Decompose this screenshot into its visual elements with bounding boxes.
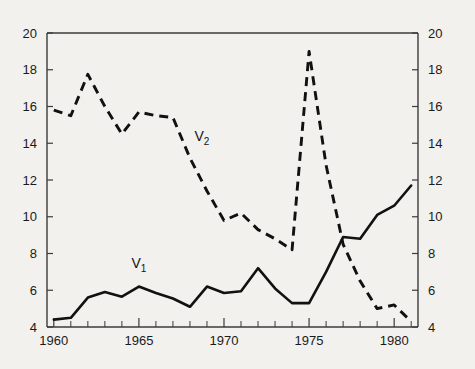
y-tick-label-right: 20	[428, 26, 442, 41]
y-tick-label-right: 6	[428, 283, 435, 298]
x-tick-label: 1965	[124, 333, 153, 348]
chart-page: 201816141210864 201816141210864 19601965…	[0, 0, 475, 369]
y-tick-label-right: 8	[428, 246, 435, 261]
y-tick-label-left: 18	[23, 62, 37, 77]
y-tick-label-right: 10	[428, 209, 442, 224]
x-tick-label: 1970	[210, 333, 239, 348]
y-tick-label-right: 12	[428, 173, 442, 188]
y-tick-label-left: 6	[30, 283, 37, 298]
y-tick-label-right: 14	[428, 136, 442, 151]
y-tick-label-right: 16	[428, 99, 442, 114]
y-tick-label-right: 4	[428, 320, 435, 335]
y-tick-label-right: 18	[428, 62, 442, 77]
y-tick-label-left: 10	[23, 209, 37, 224]
x-tick-label: 1960	[39, 333, 68, 348]
y-tick-label-left: 12	[23, 173, 37, 188]
y-tick-label-left: 14	[23, 136, 37, 151]
y-tick-label-left: 20	[23, 26, 37, 41]
line-chart: 201816141210864 201816141210864 19601965…	[0, 0, 475, 369]
x-tick-label: 1980	[380, 333, 409, 348]
y-tick-label-left: 4	[30, 320, 37, 335]
y-tick-label-left: 8	[30, 246, 37, 261]
x-tick-label: 1975	[295, 333, 324, 348]
y-tick-label-left: 16	[23, 99, 37, 114]
